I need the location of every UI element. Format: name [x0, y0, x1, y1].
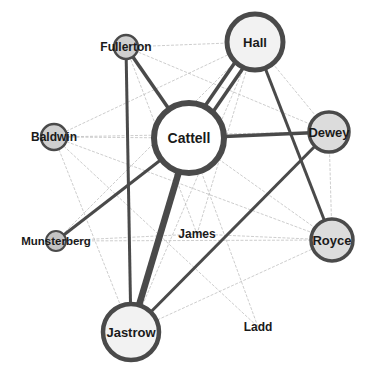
node-ladd[interactable]: Ladd — [244, 320, 273, 334]
node-dewey[interactable]: Dewey — [308, 112, 350, 152]
node-label: Fullerton — [100, 40, 151, 54]
node-james[interactable]: James — [178, 227, 216, 241]
node-label: James — [178, 227, 216, 241]
network-diagram: HallFullertonCattellBaldwinDeweyMunsterb… — [0, 0, 370, 369]
node-cattell[interactable]: Cattell — [154, 103, 224, 173]
node-label: Baldwin — [31, 130, 77, 144]
node-fullerton[interactable]: Fullerton — [100, 35, 151, 59]
node-jastrow[interactable]: Jastrow — [103, 304, 159, 360]
node-label: Ladd — [244, 320, 273, 334]
node-hall[interactable]: Hall — [227, 14, 283, 70]
nodes-layer: HallFullertonCattellBaldwinDeweyMunsterb… — [21, 14, 353, 360]
edge-fullerton-jastrow — [126, 47, 131, 332]
node-royce[interactable]: Royce — [311, 219, 353, 261]
node-label: Munsterberg — [21, 235, 91, 247]
node-baldwin[interactable]: Baldwin — [31, 124, 77, 150]
node-munsterberg[interactable]: Munsterberg — [21, 231, 91, 251]
node-label: Dewey — [308, 125, 350, 140]
node-label: Cattell — [168, 130, 211, 146]
node-label: Hall — [243, 35, 267, 50]
edge-hall-jastrow — [131, 42, 255, 332]
node-label: Royce — [312, 233, 351, 248]
edges-layer — [54, 39, 332, 332]
node-label: Jastrow — [106, 325, 156, 340]
